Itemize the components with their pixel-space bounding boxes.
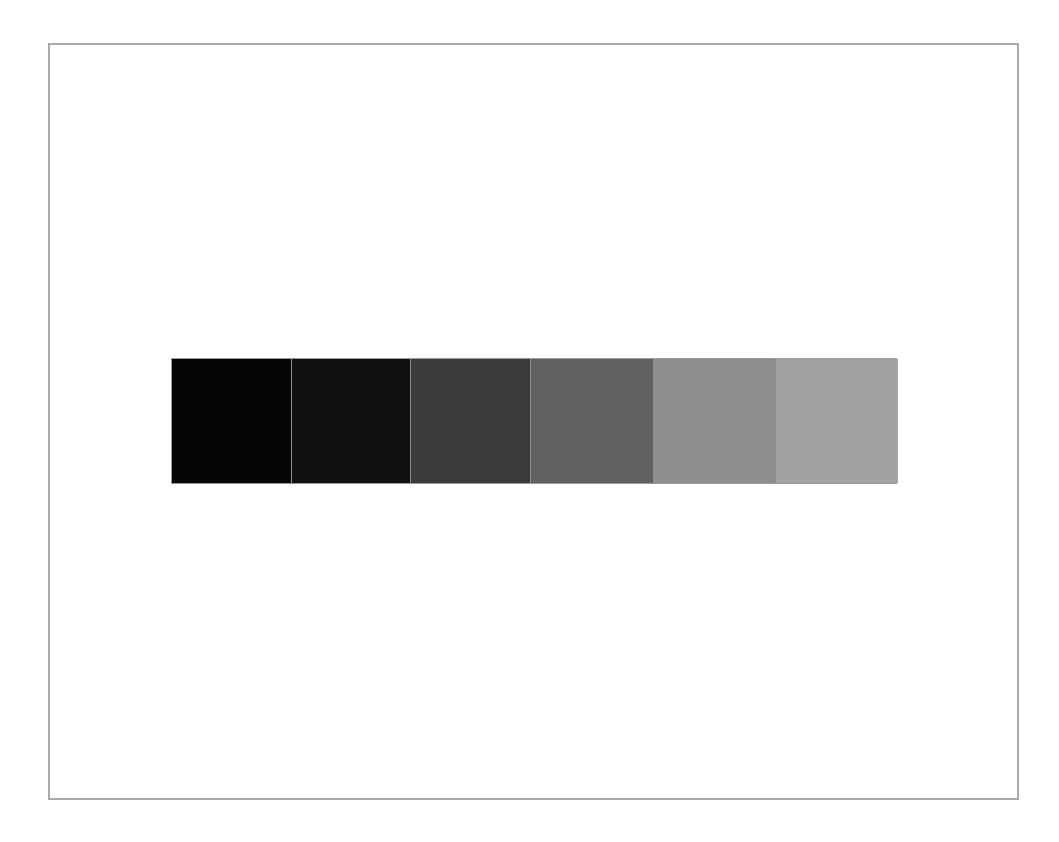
swatch-2	[291, 359, 410, 483]
swatch-1	[172, 359, 291, 483]
swatch-3	[410, 359, 530, 483]
swatch-5	[653, 359, 775, 483]
swatch-4	[530, 359, 653, 483]
swatch-6	[775, 359, 898, 483]
canvas	[0, 0, 1059, 842]
grayscale-swatch-strip	[171, 358, 897, 484]
